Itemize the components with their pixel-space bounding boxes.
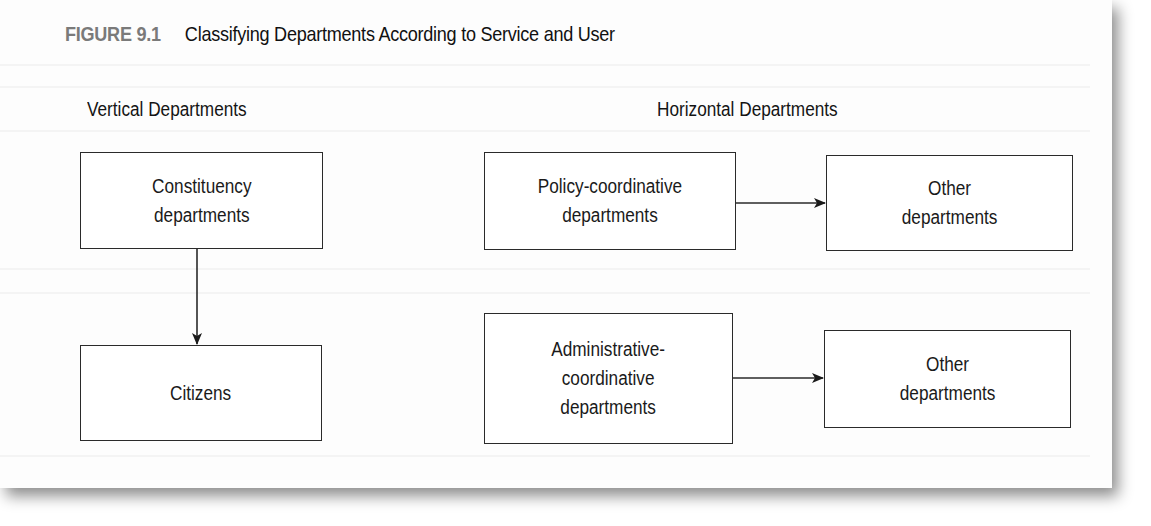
administrative-coordinative-departments-box: Administrative- coordinative departments — [484, 313, 733, 444]
figure-caption: FIGURE 9.1Classifying Departments Accord… — [65, 22, 615, 46]
box-label: Administrative- coordinative departments — [552, 335, 666, 422]
scanned-page-stage: FIGURE 9.1Classifying Departments Accord… — [0, 0, 1151, 526]
box-label: Policy-coordinative departments — [538, 172, 682, 230]
bleed-through-line — [0, 86, 1090, 88]
box-label: Other departments — [902, 174, 998, 232]
box-label: Other departments — [900, 350, 996, 408]
other-departments-box-1: Other departments — [826, 155, 1073, 251]
bleed-through-line — [0, 130, 1090, 132]
bleed-through-line — [0, 292, 1090, 294]
figure-number: FIGURE 9.1 — [65, 22, 161, 45]
constituency-departments-box: Constituency departments — [80, 152, 323, 249]
citizens-box: Citizens — [80, 345, 322, 441]
bleed-through-line — [0, 64, 1090, 66]
bleed-through-line — [0, 268, 1090, 270]
other-departments-box-2: Other departments — [824, 330, 1071, 428]
bleed-through-line — [0, 455, 1090, 457]
box-label: Citizens — [170, 379, 231, 408]
book-page: FIGURE 9.1Classifying Departments Accord… — [0, 0, 1112, 488]
figure-title: Classifying Departments According to Ser… — [185, 22, 615, 45]
horizontal-departments-heading: Horizontal Departments — [657, 98, 838, 121]
box-label: Constituency departments — [152, 172, 251, 230]
policy-coordinative-departments-box: Policy-coordinative departments — [484, 152, 736, 250]
vertical-departments-heading: Vertical Departments — [87, 98, 247, 121]
